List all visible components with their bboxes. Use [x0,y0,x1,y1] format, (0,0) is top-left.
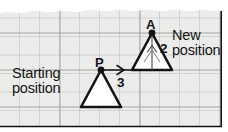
new-position-line1: New [172,28,220,43]
new-position-label: New position [172,28,220,58]
point-p-label: P [95,56,104,69]
horizontal-translation-label: 3 [117,76,125,90]
vertical-translation-label: 2 [160,42,168,56]
starting-position-line2: position [12,81,60,96]
point-a-label: A [146,18,155,31]
translation-diagram-figure: Starting position New position P A 3 2 [0,0,228,132]
starting-position-label: Starting position [12,66,60,96]
starting-position-line1: Starting [12,66,60,81]
new-position-line2: position [172,43,220,58]
